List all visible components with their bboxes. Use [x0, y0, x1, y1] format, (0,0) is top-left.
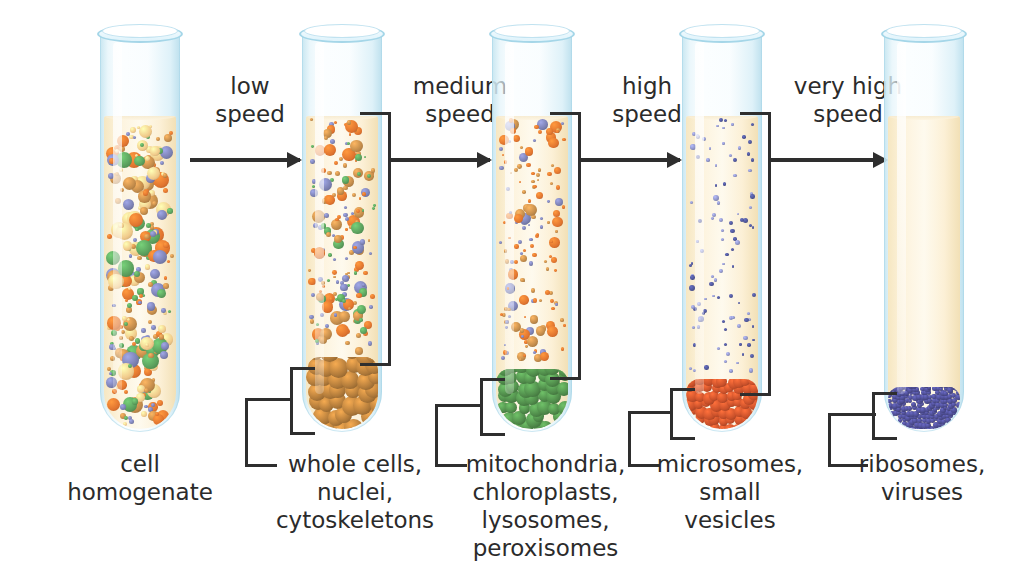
organelle-particle [310, 118, 313, 121]
organelle-particle [536, 192, 543, 199]
organelle-particle [536, 173, 540, 177]
organelle-particle [519, 295, 529, 305]
pellet-particle [957, 410, 960, 415]
organelle-particle [722, 263, 725, 266]
organelle-particle [521, 335, 524, 338]
organelle-particle [722, 127, 725, 130]
organelle-particle [107, 234, 112, 239]
pellet-bracket-3 [480, 378, 505, 436]
organelle-particle [325, 195, 335, 205]
organelle-particle [545, 290, 550, 295]
organelle-particle [310, 319, 315, 324]
organelle-particle [144, 388, 149, 393]
organelle-particle [530, 244, 534, 248]
organelle-particle [527, 336, 539, 348]
organelle-particle [538, 130, 542, 134]
organelle-particle [704, 365, 709, 370]
organelle-particle [522, 190, 526, 194]
arrow-low-speed [190, 158, 300, 162]
organelle-particle [722, 320, 725, 323]
organelle-particle [126, 307, 132, 313]
organelle-particle [537, 179, 540, 182]
tube-caption-4: microsomes, small vesicles [630, 450, 830, 534]
organelle-particle [525, 147, 534, 156]
organelle-particle [533, 298, 538, 303]
organelle-particle [348, 307, 351, 310]
organelle-particle [520, 146, 523, 149]
organelle-particle [691, 262, 694, 265]
organelle-particle [709, 282, 714, 287]
organelle-particle [524, 316, 527, 319]
organelle-particle [531, 288, 536, 293]
organelle-particle [332, 270, 337, 275]
organelle-particle [349, 133, 352, 136]
organelle-particle [717, 347, 720, 350]
organelle-particle [139, 294, 143, 298]
organelle-particle [514, 260, 519, 265]
organelle-particle [110, 421, 113, 424]
organelle-particle [721, 238, 724, 241]
organelle-particle [716, 125, 719, 128]
tube-rim-4 [679, 25, 765, 43]
organelle-particle [704, 298, 707, 301]
organelle-particle [533, 351, 536, 354]
organelle-particle [345, 257, 348, 260]
organelle-particle [353, 301, 357, 305]
organelle-particle [518, 240, 522, 244]
organelle-particle [520, 278, 525, 283]
organelle-particle [152, 201, 156, 205]
organelle-particle [499, 241, 502, 244]
organelle-particle [343, 163, 348, 168]
organelle-particle [168, 310, 171, 313]
organelle-particle [123, 422, 127, 426]
organelle-particle [540, 352, 549, 361]
organelle-particle [729, 369, 733, 373]
organelle-particle [529, 261, 534, 266]
organelle-particle [717, 201, 721, 205]
organelle-particle [724, 360, 727, 363]
organelle-particle [326, 232, 331, 237]
organelle-particle [724, 343, 727, 346]
pellet-particle [557, 382, 568, 396]
organelle-particle [333, 258, 336, 261]
organelle-particle [339, 311, 350, 322]
tube-caption-3: mitochondria, chloroplasts, lysosomes, p… [438, 450, 653, 562]
organelle-particle [138, 301, 141, 304]
organelle-particle [354, 271, 357, 274]
organelle-particle [723, 182, 727, 186]
organelle-particle [156, 137, 161, 142]
organelle-particle [135, 228, 139, 232]
organelle-particle [737, 213, 740, 216]
tube-caption-1: cell homogenate [50, 450, 230, 506]
organelle-particle [140, 207, 148, 215]
organelle-particle [523, 354, 526, 357]
tube-caption-2: whole cells, nuclei, cytoskeletons [250, 450, 460, 534]
organelle-particle [352, 193, 356, 197]
organelle-particle [540, 225, 544, 229]
organelle-particle [345, 228, 348, 231]
organelle-particle [729, 154, 732, 157]
supernatant-bracket-3 [550, 112, 581, 380]
organelle-particle [124, 390, 128, 394]
tube-glass-5 [884, 32, 964, 432]
tube-rim-2 [299, 25, 385, 43]
organelle-particle [327, 279, 330, 282]
organelle-particle [167, 208, 172, 213]
organelle-particle [333, 292, 337, 296]
organelle-particle [330, 139, 335, 144]
organelle-particle [151, 325, 156, 330]
organelle-particle [514, 214, 523, 223]
organelle-particle [157, 289, 167, 299]
caption-leader-v-2 [245, 398, 248, 467]
organelle-particle [531, 172, 534, 175]
organelle-particle [324, 136, 328, 140]
organelle-particle [308, 269, 311, 272]
organelle-particle [169, 131, 173, 135]
organelle-particle [327, 171, 331, 175]
organelle-particle [725, 253, 728, 256]
organelle-particle [342, 299, 346, 303]
organelle-particle [328, 253, 332, 257]
test-tube-5 [884, 32, 964, 432]
glass-highlight-1 [113, 42, 122, 394]
organelle-particle [519, 181, 522, 184]
